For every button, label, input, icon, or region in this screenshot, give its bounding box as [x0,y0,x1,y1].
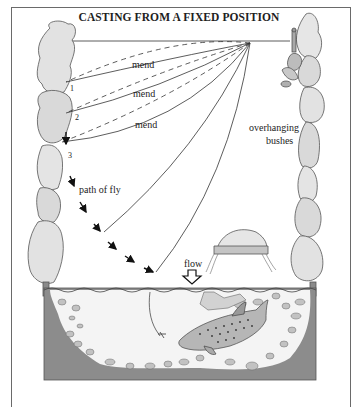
path-of-fly-label: path of fly [79,184,121,195]
position-2-label: 2 [75,113,79,122]
path-of-fly-arrows-icon [66,132,153,272]
overhanging-label: overhanging [249,122,299,133]
mend-label-3: mend [135,119,157,130]
rock-icon [206,230,276,274]
position-3-label: 3 [68,151,72,160]
flow-arrow-icon [183,270,201,284]
rock-small-icon [281,81,291,87]
flow-label: flow [184,258,202,269]
river-cross-section [44,288,316,380]
position-1-label: 1 [70,84,74,93]
mend-label-1: mend [132,59,154,70]
cast-lines [62,42,250,272]
bushes-label: bushes [266,135,293,146]
mend-label-2: mend [133,88,155,99]
